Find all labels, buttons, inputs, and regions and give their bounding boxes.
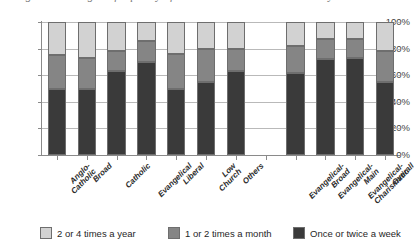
x-axis-tick-mark xyxy=(266,156,267,160)
bar-segment xyxy=(107,51,125,71)
bar-liberal xyxy=(167,22,185,155)
x-axis-tick-mark xyxy=(57,156,58,160)
bar-evangelical-broad xyxy=(286,22,304,155)
bar-segment xyxy=(376,22,394,51)
x-axis-tick-mark xyxy=(117,156,118,160)
x-axis-tick-mark xyxy=(206,156,207,160)
chart-title-cropped: Diagram showing the frequency of attenda… xyxy=(8,0,402,3)
bar-anglo-catholic xyxy=(48,22,66,155)
x-axis-line xyxy=(41,155,400,156)
plot-area xyxy=(42,22,400,155)
bar-broad xyxy=(78,22,96,155)
legend-swatch xyxy=(168,227,180,239)
bar-segment xyxy=(286,22,304,46)
bar-segment xyxy=(227,71,245,155)
bar-low-church xyxy=(197,22,215,155)
bar-segment xyxy=(286,46,304,73)
bar-segment xyxy=(346,39,364,58)
bar-segment xyxy=(316,39,334,59)
legend-label: 2 or 4 times a year xyxy=(57,228,136,239)
legend-item: Once or twice a week xyxy=(293,226,401,240)
bar-segment xyxy=(376,51,394,82)
legend-label: Once or twice a week xyxy=(310,228,401,239)
bar-segment xyxy=(346,22,364,39)
legend-label: 1 or 2 times a month xyxy=(185,228,272,239)
bar-segment xyxy=(346,58,364,155)
bar-others xyxy=(227,22,245,155)
x-axis-tick-label: Broad xyxy=(92,162,114,184)
legend-swatch xyxy=(40,227,52,239)
legend-swatch xyxy=(293,227,305,239)
bar-segment xyxy=(78,58,96,89)
bar-segment xyxy=(78,89,96,156)
bar-segment xyxy=(197,49,215,82)
bar-segment xyxy=(137,41,155,62)
chart-legend: 2 or 4 times a year1 or 2 times a monthO… xyxy=(40,226,385,242)
x-axis-tick-mark xyxy=(176,156,177,160)
bar-segment xyxy=(48,22,66,55)
bar-segment xyxy=(78,22,96,58)
x-axis-tick-label: Others xyxy=(241,162,265,186)
bar-overall xyxy=(376,22,394,155)
x-axis-tick-mark xyxy=(355,156,356,160)
x-axis-tick-label: LowChurch xyxy=(212,162,244,194)
x-axis-tick-mark xyxy=(87,156,88,160)
bar-segment xyxy=(227,22,245,49)
legend-item: 2 or 4 times a year xyxy=(40,226,136,240)
bar-segment xyxy=(167,54,185,89)
bar-evangelical-charismatic xyxy=(346,22,364,155)
bar-segment xyxy=(227,49,245,72)
x-axis-tick-label-line: Others xyxy=(241,162,265,186)
bar-segment xyxy=(107,22,125,51)
bar-segment xyxy=(167,89,185,156)
x-axis-tick-mark xyxy=(236,156,237,160)
bar-evangelical xyxy=(137,22,155,155)
bar-segment xyxy=(197,82,215,155)
bar-segment xyxy=(286,73,304,155)
bar-segment xyxy=(316,59,334,155)
x-axis-tick-label-line: Catholic xyxy=(124,162,152,190)
bar-segment xyxy=(167,22,185,54)
x-axis-tick-label: Catholic xyxy=(124,162,152,190)
x-axis-tick-mark xyxy=(296,156,297,160)
x-axis-tick-mark xyxy=(325,156,326,160)
y-axis-tick-mark xyxy=(38,155,42,156)
legend-item: 1 or 2 times a month xyxy=(168,226,272,240)
x-axis-tick-mark xyxy=(146,156,147,160)
bar-catholic xyxy=(107,22,125,155)
bar-segment xyxy=(107,71,125,155)
bar-segment xyxy=(197,22,215,49)
bar-segment xyxy=(376,82,394,155)
bar-segment xyxy=(316,22,334,39)
bar-segment xyxy=(48,89,66,156)
bar-segment xyxy=(137,62,155,155)
bar-evangelical-main xyxy=(316,22,334,155)
bar-segment xyxy=(48,55,66,88)
x-axis-tick-label-line: Broad xyxy=(92,162,114,184)
x-axis-tick-mark xyxy=(385,156,386,160)
bar-segment xyxy=(137,22,155,41)
